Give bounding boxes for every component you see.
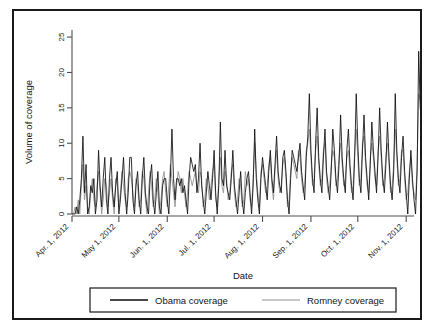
legend-label: Romney coverage [307, 295, 384, 306]
y-axis-title: Volume of coverage [23, 80, 34, 164]
y-tick-label: 5 [57, 176, 66, 181]
y-tick-label: 15 [57, 103, 66, 112]
y-tick-label: 25 [57, 32, 66, 41]
legend-label: Obama coverage [155, 295, 228, 306]
y-tick-label: 10 [57, 138, 66, 147]
coverage-line-chart: 0510152025 Volume of coverage Apr. 1, 20… [14, 11, 420, 318]
y-tick-label: 0 [57, 211, 66, 216]
chart-legend: Obama coverageRomney coverage [90, 288, 396, 312]
x-axis-title: Date [233, 270, 253, 281]
y-tick-label: 20 [57, 67, 66, 76]
figure-frame: 0510152025 Volume of coverage Apr. 1, 20… [12, 9, 422, 320]
figure-canvas: 0510152025 Volume of coverage Apr. 1, 20… [0, 0, 436, 333]
